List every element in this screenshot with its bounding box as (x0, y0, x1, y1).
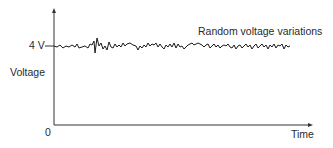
x-axis-label: Time (291, 128, 314, 140)
noise-trace (54, 38, 290, 53)
tick-label-4v: 4 V (29, 39, 45, 51)
y-axis-label: Voltage (10, 66, 45, 78)
origin-label: 0 (45, 126, 51, 138)
x-axis-arrow-icon (308, 123, 313, 127)
y-axis-arrow-icon (52, 8, 56, 13)
annotation-label: Random voltage variations (198, 25, 322, 37)
